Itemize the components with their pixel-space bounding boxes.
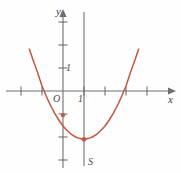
y-intercept-dot — [61, 113, 65, 117]
y-tick-label-one: 1 — [66, 63, 71, 73]
vertex-label: S — [88, 157, 93, 167]
x-tick-label-one: 1 — [78, 94, 83, 104]
x-axis-label: x — [168, 94, 173, 105]
vertex-dot — [82, 137, 86, 141]
parabola-figure: y x O 1 1 S — [0, 0, 181, 173]
origin-label: O — [53, 94, 60, 104]
y-axis-label: y — [56, 6, 61, 17]
plot-canvas — [0, 0, 181, 173]
